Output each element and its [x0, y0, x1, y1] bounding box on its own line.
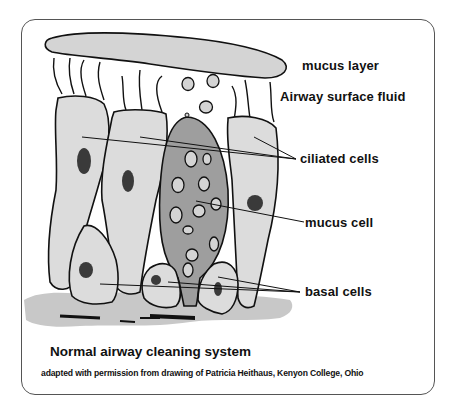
diagram-credit: adapted with permission from drawing of …: [41, 368, 363, 378]
label-airway-surface-fluid: Airway surface fluid: [280, 89, 406, 104]
label-ciliated-cells: ciliated cells: [300, 151, 379, 166]
label-mucus-layer: mucus layer: [302, 58, 379, 73]
label-mucus-cell: mucus cell: [305, 215, 373, 230]
label-basal-cells: basal cells: [305, 284, 372, 299]
fluid-droplets: [182, 75, 219, 114]
diagram-title: Normal airway cleaning system: [50, 344, 251, 359]
